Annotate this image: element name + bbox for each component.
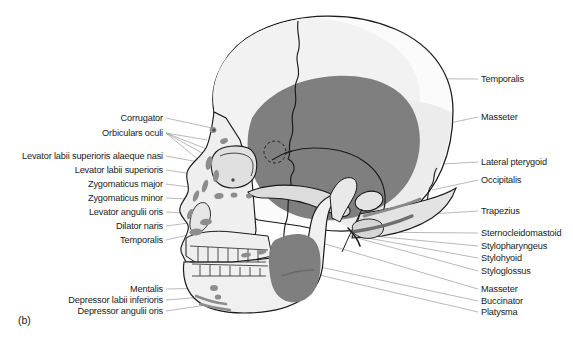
label-stylopharyngeus: Stylopharyngeus (481, 241, 547, 251)
label-temporalis-right: Temporalis (481, 74, 524, 84)
label-depressor-angulii-oris: Depressor angulii oris (77, 306, 163, 316)
label-occipitalis: Occipitalis (481, 175, 521, 185)
label-mentalis: Mentalis (130, 284, 163, 294)
label-masseter-lower: Masseter (481, 284, 518, 294)
orbital-cavity (211, 146, 257, 188)
masseter-muscle-region (269, 234, 321, 302)
label-platysma: Platysma (481, 307, 518, 317)
label-depressor-labii-inferioris: Depressor labii inferioris (68, 295, 163, 305)
label-sternocleidomastoid: Sternocleidomastoid (481, 228, 561, 238)
label-lateral-pterygoid: Lateral pterygoid (481, 157, 547, 167)
label-trapezius: Trapezius (481, 206, 520, 216)
label-temporalis-left: Temporalis (120, 235, 163, 245)
figure-caption: (b) (18, 314, 31, 326)
label-levator-labii-superioris: Levator labii superioris (75, 165, 163, 175)
label-levator-angulii-oris: Levator angulii oris (89, 207, 163, 217)
label-styloglossus: Styloglossus (481, 266, 531, 276)
label-masseter-upper: Masseter (481, 112, 518, 122)
label-stylohyoid: Stylohyoid (481, 253, 522, 263)
label-dilator-naris: Dilator naris (116, 221, 163, 231)
label-buccinator: Buccinator (481, 296, 523, 306)
label-orbicularis-oculi: Orbiculars oculi (102, 128, 163, 138)
label-levator-labii-superioris-alaeque-nasi: Levator labii superioris alaeque nasi (22, 151, 163, 161)
label-zygomaticus-major: Zygomaticus major (88, 179, 163, 189)
label-corrugator: Corrugator (121, 113, 163, 123)
anatomical-figure: Corrugator Orbiculars oculi Levator labi… (0, 0, 573, 341)
label-zygomaticus-minor: Zygomaticus minor (88, 193, 163, 203)
